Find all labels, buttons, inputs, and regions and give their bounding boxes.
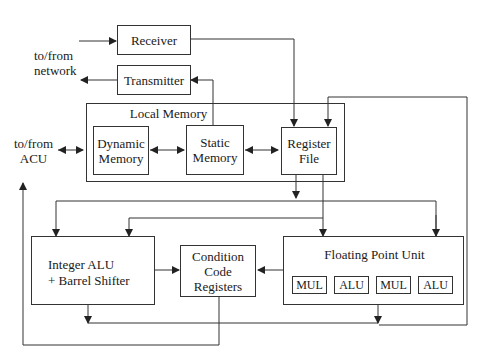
network-label: to/from network (34, 48, 77, 78)
register-file-line2: File (299, 151, 319, 166)
acu-label-line1: to/from (14, 136, 53, 151)
fpu-mul-unit-2: MUL (376, 276, 411, 294)
static-memory-line2: Memory (193, 150, 238, 165)
fpu-mul-unit-1: MUL (292, 276, 327, 294)
condition-code-line3: Registers (194, 279, 242, 294)
receiver-label: Receiver (131, 33, 177, 48)
transmitter-block: Transmitter (117, 65, 191, 95)
register-file-block: Register File (281, 127, 337, 175)
dynamic-memory-block: Dynamic Memory (93, 126, 149, 175)
static-memory-block: Static Memory (186, 125, 244, 175)
receiver-block: Receiver (117, 25, 191, 55)
fpu-alu-unit-2: ALU (418, 276, 453, 294)
integer-alu-line1: Integer ALU (48, 257, 130, 273)
acu-label-line2: ACU (14, 151, 53, 166)
fpu-block: Floating Point Unit MUL ALU MUL ALU (283, 236, 464, 305)
condition-code-block: Condition Code Registers (180, 245, 256, 297)
dynamic-memory-line1: Dynamic (97, 136, 145, 151)
acu-label: to/from ACU (14, 136, 53, 166)
integer-alu-block: Integer ALU + Barrel Shifter (31, 236, 155, 305)
fpu-label: Floating Point Unit (284, 247, 465, 262)
condition-code-line1: Condition (192, 249, 244, 264)
network-label-line1: to/from (34, 48, 77, 63)
static-memory-line1: Static (200, 135, 230, 150)
local-memory-label: Local Memory (86, 106, 251, 121)
transmitter-label: Transmitter (124, 73, 184, 88)
condition-code-line2: Code (204, 264, 231, 279)
dynamic-memory-line2: Memory (99, 151, 144, 166)
integer-alu-line2: + Barrel Shifter (48, 273, 130, 289)
register-file-line1: Register (287, 136, 330, 151)
fpu-alu-unit-1: ALU (334, 276, 369, 294)
network-label-line2: network (34, 63, 77, 78)
